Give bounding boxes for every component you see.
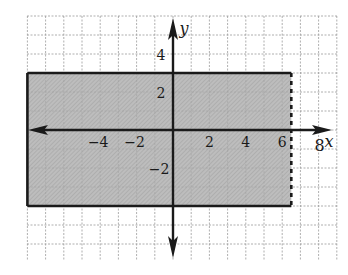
x-tick-label: 6 (278, 134, 287, 150)
graph-svg: −4−2246842−2xy (0, 0, 348, 275)
y-axis-label: y (178, 19, 189, 38)
y-tick-label: 2 (157, 85, 166, 101)
x-axis-label: x (324, 132, 333, 151)
coordinate-plane-figure: −4−2246842−2xy (0, 0, 348, 275)
x-tick-label: 2 (205, 134, 214, 150)
x-tick-label: −4 (88, 134, 109, 150)
y-tick-label: 4 (157, 47, 166, 63)
y-tick-label: −2 (149, 161, 170, 177)
x-tick-label: 4 (241, 134, 250, 150)
x-tick-label: −2 (124, 134, 145, 150)
x-tick-label: 8 (315, 136, 325, 155)
